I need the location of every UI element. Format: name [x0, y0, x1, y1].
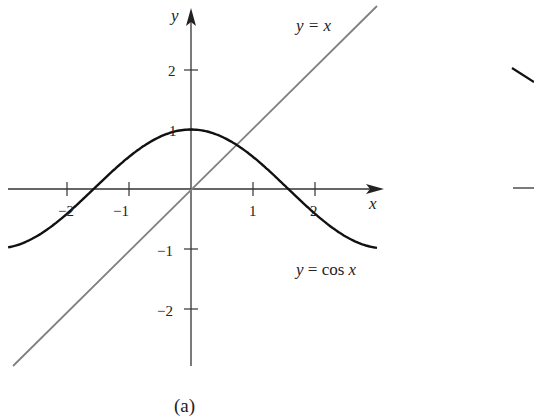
figure-caption: (a)	[174, 395, 195, 417]
y-tick-label: −1	[157, 243, 173, 259]
y-tick-label: 1	[169, 123, 177, 139]
adjacent-figure-curve-fragment	[512, 68, 534, 82]
x-tick-label: 2	[310, 203, 318, 219]
x-axis-label: x	[368, 194, 377, 213]
y-tick-label: 2	[168, 63, 176, 79]
y-axis-label: y	[169, 6, 179, 25]
x-tick-label: 1	[249, 203, 257, 219]
curve-annotation: y = cos x	[294, 260, 357, 279]
x-tick-label: −1	[113, 203, 129, 219]
y-tick-label: −2	[157, 303, 173, 319]
figure-canvas: −2 −1 1 2 2 1 −1 −2 x y y = x y = cos x …	[0, 0, 534, 420]
x-tick-label: −2	[58, 203, 74, 219]
line-annotation: y = x	[294, 16, 332, 35]
